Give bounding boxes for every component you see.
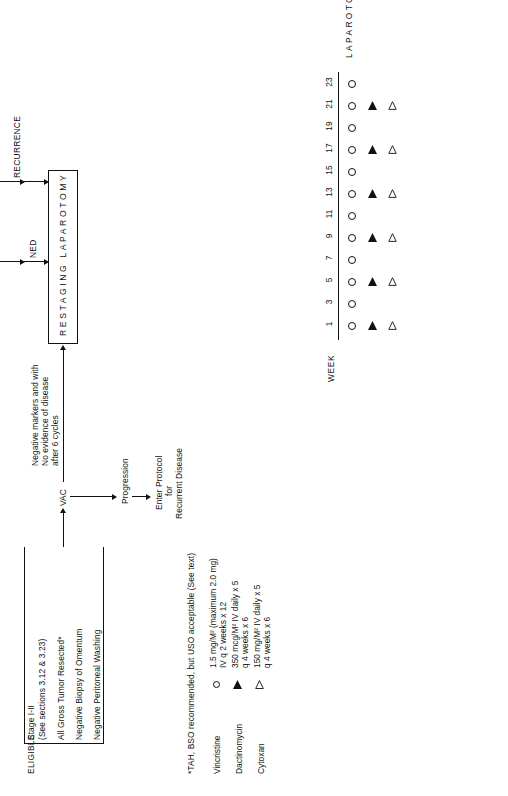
week-axis-line	[338, 72, 339, 340]
vac-progression-label: Progression	[120, 458, 131, 504]
week-number-9: 9	[324, 229, 334, 243]
recurrence-label: RECURRENCE	[12, 116, 23, 178]
week-number-1: 1	[324, 317, 334, 331]
treatment-schedule: WEEK1357911131517192123LAPAROTOMY	[330, 56, 500, 796]
legend-name-dactinomycin: Dactinomycin	[234, 724, 244, 774]
arrow-eligible-to-vac-head	[60, 508, 66, 513]
schedule-marker-dactinomycin-week-9	[368, 233, 377, 242]
ned-riser	[0, 261, 20, 262]
schedule-marker-vincristine-week-11	[348, 212, 356, 220]
week-number-17: 17	[324, 141, 334, 155]
schedule-marker-vincristine-week-7	[348, 256, 356, 264]
arrow-vac-to-restaging-head	[60, 345, 66, 350]
schedule-marker-dactinomycin-week-5	[368, 277, 377, 286]
schedule-marker-vincristine-week-21	[348, 102, 356, 110]
schedule-marker-vincristine-week-5	[348, 278, 356, 286]
restaging-laparotomy-box: RESTAGING LAPAROTOMY	[48, 170, 78, 344]
ned-label: NED	[28, 239, 39, 258]
recurrence-riser-head	[20, 179, 25, 185]
vincristine-circle-icon	[213, 681, 220, 688]
week-number-13: 13	[324, 185, 334, 199]
restaging-laparotomy-label: RESTAGING LAPAROTOMY	[58, 173, 68, 336]
schedule-row-label: LAPAROTOMY	[344, 0, 354, 58]
cytoxan-open-triangle-icon	[255, 680, 264, 689]
eligibility-criterion-omentum: Negative Biopsy of Omentum	[74, 628, 85, 740]
schedule-marker-vincristine-week-15	[348, 168, 356, 176]
schedule-marker-dactinomycin-week-1	[368, 321, 377, 330]
schedule-marker-vincristine-week-9	[348, 234, 356, 242]
negative-markers-line2: No evidence of disease	[40, 377, 51, 466]
week-number-15: 15	[324, 163, 334, 177]
schedule-marker-vincristine-week-19	[348, 124, 356, 132]
week-number-5: 5	[324, 273, 334, 287]
arrow-eligible-to-vac-line	[63, 513, 64, 547]
legend-dose-dactinomycin-2: q 4 weeks x 6	[240, 617, 250, 668]
vac-progression-down-line	[132, 496, 146, 497]
schedule-marker-vincristine-week-13	[348, 190, 356, 198]
ned-branch-flow	[0, 0, 1, 796]
week-number-7: 7	[324, 251, 334, 265]
schedule-marker-cytoxan-week-1	[388, 321, 397, 330]
eligibility-criterion-stage: Stage I-II	[26, 705, 37, 740]
vac-label: VAC	[58, 489, 69, 506]
week-number-23: 23	[324, 75, 334, 89]
recurrence-arrow-head	[44, 179, 49, 185]
vac-recurrent-disease-label: Recurrent Disease	[174, 448, 185, 519]
legend-dose-cytoxan-2: q 4 weeks x 6	[262, 617, 272, 668]
schedule-marker-dactinomycin-week-13	[368, 189, 377, 198]
ned-riser-head	[20, 259, 25, 265]
vac-down-head	[112, 494, 117, 500]
drug-legend: Vincristine 1.5 mg/M² (maximum 2.0 mg) I…	[210, 454, 280, 774]
legend-dose-vincristine-2: IV q 2 weeks x 12	[218, 602, 228, 668]
schedule-marker-dactinomycin-week-17	[368, 145, 377, 154]
schema-canvas: ELIGIBLE Stage I-II (See sections 3.12 &…	[0, 0, 508, 796]
legend-dose-dactinomycin-1: 350 mcg/M² IV daily x 5	[230, 580, 240, 668]
week-number-21: 21	[324, 97, 334, 111]
week-number-3: 3	[324, 295, 334, 309]
legend-dose-vincristine-1: 1.5 mg/M² (maximum 2.0 mg)	[208, 558, 218, 668]
eligibility-heading: ELIGIBLE	[26, 734, 37, 774]
schedule-marker-cytoxan-week-13	[388, 189, 397, 198]
schedule-marker-vincristine-week-3	[348, 300, 356, 308]
legend-name-vincristine: Vincristine	[212, 736, 222, 774]
week-axis-label: WEEK	[326, 355, 336, 382]
vac-progression-down-head	[146, 494, 151, 500]
schedule-marker-vincristine-week-1	[348, 322, 356, 330]
schedule-marker-vincristine-week-17	[348, 146, 356, 154]
vac-enter-protocol-label: Enter Protocol	[154, 456, 165, 510]
week-number-19: 19	[324, 119, 334, 133]
negative-markers-line1: Negative markers and with	[30, 364, 41, 466]
recurrence-riser	[0, 181, 20, 182]
week-number-11: 11	[324, 207, 334, 221]
schedule-marker-dactinomycin-week-21	[368, 101, 377, 110]
schedule-marker-vincristine-week-23	[348, 80, 356, 88]
eligibility-criterion-resected: All Gross Tumor Resected*	[56, 637, 67, 741]
footnote-text: *TAH, BSO recommended, but USO acceptabl…	[186, 553, 197, 774]
dactinomycin-filled-triangle-icon	[233, 680, 242, 689]
ned-arrow-head	[44, 259, 49, 265]
eligibility-criterion-washing: Negative Peritoneal Washing	[92, 630, 103, 740]
legend-name-cytoxan: Cytoxan	[256, 743, 266, 774]
schedule-marker-cytoxan-week-9	[388, 233, 397, 242]
arrow-vac-to-restaging-line	[63, 350, 64, 482]
schedule-marker-cytoxan-week-17	[388, 145, 397, 154]
negative-markers-line3: after 6 cycles	[50, 415, 61, 466]
vac-for-label: for	[164, 486, 175, 496]
schedule-marker-cytoxan-week-21	[388, 101, 397, 110]
legend-dose-cytoxan-1: 150 mg/M² IV daily x 5	[252, 585, 262, 668]
schedule-marker-cytoxan-week-5	[388, 277, 397, 286]
vac-down-line	[70, 496, 112, 497]
eligibility-criterion-sections: (See sections 3.12 & 3.23)	[37, 639, 48, 740]
